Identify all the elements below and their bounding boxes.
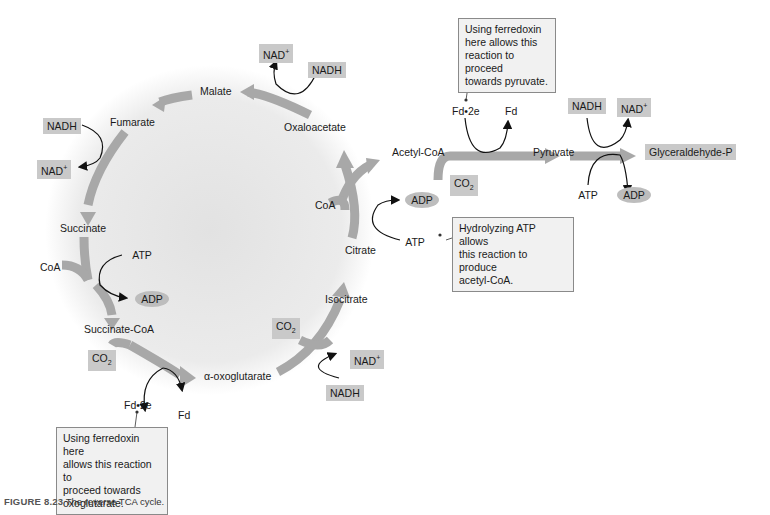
nad-plus-box: NAD+: [259, 44, 293, 63]
label-succinate-coa: Succinate-CoA: [84, 323, 154, 335]
label-glyceraldehyde-p: Glyceraldehyde-P: [645, 144, 736, 160]
label-citrate: Citrate: [345, 244, 376, 256]
nadh-box: NADH: [308, 62, 346, 78]
label-pyruvate: Pyruvate: [533, 146, 574, 158]
label-fumarate: Fumarate: [110, 116, 155, 128]
label-oxoglutarate: α-oxoglutarate: [204, 370, 271, 382]
nadh-box: NADH: [43, 118, 81, 134]
figure-caption: FIGURE 8.23 The reverse TCA cycle.: [4, 496, 164, 507]
label-isocitrate: Isocitrate: [325, 293, 368, 305]
nad-plus-box: NAD+: [617, 98, 651, 117]
co2-box: CO2: [272, 318, 300, 339]
atp-starburst: ATP: [125, 245, 159, 265]
label-malate: Malate: [200, 85, 232, 97]
note-atp-acetyl-coa: Hydrolyzing ATP allowsthis reaction to p…: [452, 217, 574, 292]
label-oxaloacetate: Oxaloacetate: [284, 121, 346, 133]
label-succinate: Succinate: [60, 222, 106, 234]
label-fd-2e: Fd•2e: [452, 105, 480, 117]
nadh-box: NADH: [326, 385, 364, 401]
label-fd: Fd: [505, 105, 517, 117]
adp-oval: ADP: [405, 192, 439, 208]
adp-oval: ADP: [135, 291, 169, 307]
nadh-box: NADH: [568, 98, 606, 114]
note-ferredoxin-pyruvate: Using ferredoxinhere allows thisreaction…: [458, 18, 556, 93]
label-coa: CoA: [40, 261, 60, 273]
nad-plus-box: NAD+: [350, 350, 384, 369]
label-fd-2e: Fd•2e: [124, 399, 152, 411]
co2-box: CO2: [450, 175, 478, 196]
nad-plus-box: NAD+: [37, 160, 71, 179]
co2-box: CO2: [88, 350, 116, 371]
atp-starburst: ATP: [571, 185, 605, 205]
label-coa: CoA: [315, 199, 335, 211]
label-fd: Fd: [178, 409, 190, 421]
label-acetyl-coa: Acetyl-CoA: [392, 146, 445, 158]
adp-oval: ADP: [617, 187, 651, 203]
atp-starburst: ATP: [398, 232, 432, 252]
